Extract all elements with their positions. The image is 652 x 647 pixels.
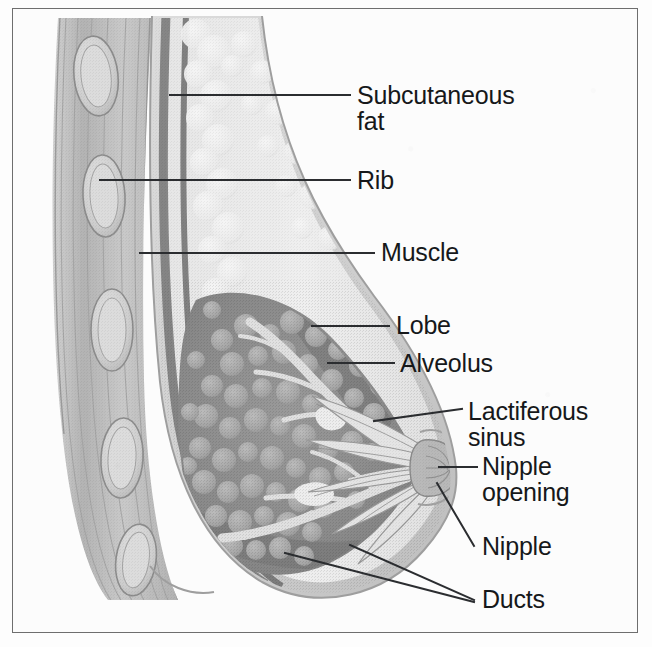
diagram-page: Subcutaneous fatRibMuscleLobeAlveolusLac… (0, 0, 652, 647)
label-lobe: Lobe (396, 312, 451, 338)
label-lactiferous-sinus: Lactiferous sinus (468, 398, 588, 450)
breast-anatomy-illustration (0, 0, 652, 647)
label-alveolus: Alveolus (400, 350, 493, 376)
label-nipple: Nipple (482, 533, 552, 559)
label-muscle: Muscle (381, 239, 459, 265)
label-subcutaneous-fat: Subcutaneous fat (357, 82, 514, 134)
label-ducts: Ducts (482, 586, 545, 612)
label-rib: Rib (357, 167, 394, 193)
label-nipple-opening: Nipple opening (482, 453, 570, 505)
